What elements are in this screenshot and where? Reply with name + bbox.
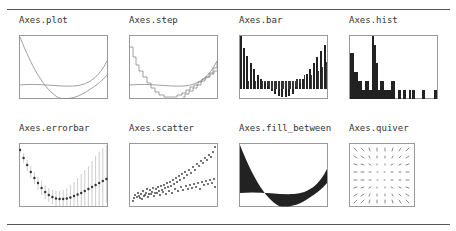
panel-title: Axes.fill_between (239, 121, 331, 135)
panel-step: Axes.step (129, 13, 221, 27)
panel-title: Axes.scatter (129, 121, 221, 135)
panel-errorbar: Axes.errorbar (19, 121, 111, 135)
panel-title: Axes.quiver (349, 121, 441, 135)
bar-chart (239, 35, 328, 99)
top-rule (7, 9, 450, 10)
plot-line-chart (19, 35, 108, 99)
bottom-rule (7, 224, 450, 225)
panel-plot: Axes.plot (19, 13, 111, 27)
panel-scatter: Axes.scatter (129, 121, 221, 135)
panel-title: Axes.bar (239, 13, 331, 27)
errorbar-chart (19, 143, 108, 207)
panel-title: Axes.step (129, 13, 221, 27)
panel-hist: Axes.hist (349, 13, 441, 27)
scatter-chart (129, 143, 218, 207)
bar-chart-svg (239, 35, 328, 99)
histogram-svg (349, 35, 438, 99)
panel-title: Axes.hist (349, 13, 441, 27)
quiver-svg (349, 143, 415, 207)
panel-title: Axes.errorbar (19, 121, 111, 135)
fill-between-chart (239, 143, 328, 207)
quiver-chart (349, 143, 415, 207)
panel-bar: Axes.bar (239, 13, 331, 27)
line-chart-svg (19, 35, 108, 99)
errorbar-svg (19, 143, 108, 207)
fill-between-svg (239, 143, 328, 207)
panel-fill-between: Axes.fill_between (239, 121, 331, 135)
panel-quiver: Axes.quiver (349, 121, 441, 135)
step-chart (129, 35, 218, 99)
panel-title: Axes.plot (19, 13, 111, 27)
histogram-chart (349, 35, 438, 99)
step-chart-svg (129, 35, 218, 99)
scatter-svg (129, 143, 218, 207)
